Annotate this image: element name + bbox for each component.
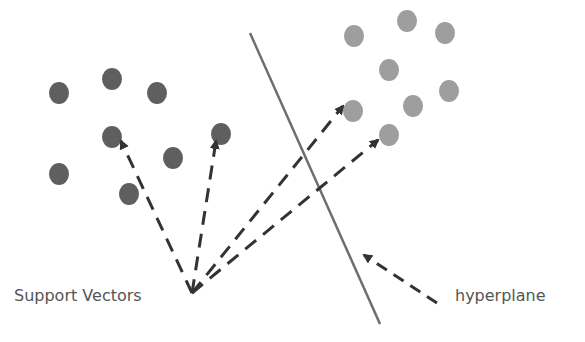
hyperplane-label: hyperplane bbox=[455, 286, 546, 305]
class-a-point bbox=[49, 163, 69, 185]
class-a-point bbox=[102, 126, 122, 148]
class-a-point bbox=[102, 68, 122, 90]
class-a-point bbox=[49, 82, 69, 104]
class-b-point bbox=[379, 59, 399, 81]
class-a-point bbox=[163, 147, 183, 169]
support-vector-arrows bbox=[121, 106, 378, 293]
class-b-point bbox=[343, 100, 363, 122]
class-a-point bbox=[147, 82, 167, 104]
class-b-point bbox=[403, 95, 423, 117]
support-vector-arrow bbox=[192, 140, 378, 293]
support-vector-arrow bbox=[192, 141, 216, 293]
support-vectors-label: Support Vectors bbox=[14, 286, 142, 305]
class-b-point bbox=[439, 80, 459, 102]
class-b-point bbox=[397, 10, 417, 32]
class-a-point bbox=[119, 183, 139, 205]
class-b-point bbox=[435, 22, 455, 44]
hyperplane-line bbox=[250, 33, 380, 324]
class-a-point bbox=[211, 123, 231, 145]
hyperplane-pointer-arrow bbox=[364, 255, 437, 303]
class-b-point bbox=[379, 124, 399, 146]
class-b-point bbox=[344, 25, 364, 47]
class-b-points bbox=[343, 10, 459, 146]
